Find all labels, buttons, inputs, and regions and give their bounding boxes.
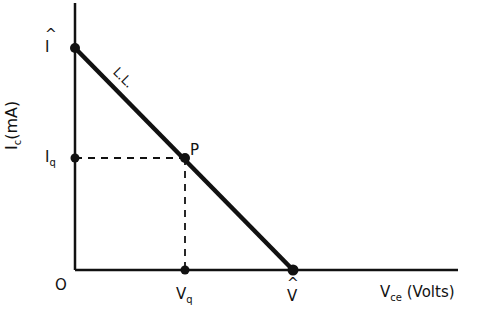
i-hat-label: I [45, 38, 49, 56]
vq-symbol: V [176, 285, 186, 303]
iq-point [71, 154, 80, 163]
origin-label: O [55, 276, 67, 294]
i-hat-symbol: I [45, 38, 49, 56]
vq-label: Vq [176, 285, 193, 305]
v-hat-label: V [287, 287, 297, 305]
i-hat-point [70, 43, 80, 53]
y-axis-unit: (mA) [2, 101, 21, 140]
x-axis-unit: (Volts) [407, 283, 455, 301]
iq-subscript: q [49, 157, 55, 168]
y-axis-label: Ic(mA) [2, 101, 23, 150]
y-axis-symbol: I [2, 145, 21, 150]
x-axis-symbol: V [380, 283, 390, 301]
iq-label: Iq [45, 148, 56, 168]
y-axis-subscript: c [12, 140, 23, 146]
point-p-label: P [190, 141, 199, 159]
v-hat-symbol: V [287, 287, 297, 305]
operating-point-p [180, 153, 190, 163]
load-line-diagram [0, 0, 479, 331]
v-hat-point [288, 265, 299, 276]
x-axis-subscript: ce [390, 292, 402, 303]
vq-subscript: q [186, 294, 192, 305]
vq-point [181, 266, 190, 275]
x-axis-label: Vce (Volts) [380, 283, 455, 303]
